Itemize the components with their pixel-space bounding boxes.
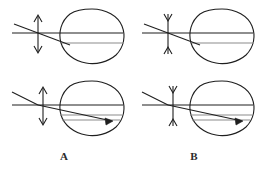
panel-a-bottom-row <box>12 81 124 136</box>
oblique-refracted-ray <box>38 105 112 121</box>
eye-outline <box>60 81 124 136</box>
eye-outline <box>190 81 254 136</box>
oblique-refracted-ray <box>38 33 70 45</box>
panel-b-top-row <box>142 9 254 64</box>
oblique-refracted-ray <box>168 33 200 45</box>
oblique-refracted-ray <box>168 105 242 121</box>
optics-figure: A B <box>0 0 258 172</box>
retina-focus-arrowhead-icon <box>235 118 243 125</box>
oblique-incident-ray <box>12 92 38 105</box>
oblique-incident-ray <box>142 92 168 105</box>
panel-label-a: A <box>60 150 68 162</box>
panel-label-b: B <box>190 150 198 162</box>
diagram-canvas: A B <box>0 0 258 172</box>
eye-outline <box>190 9 254 64</box>
oblique-incident-ray <box>144 24 168 33</box>
oblique-incident-ray <box>14 24 38 33</box>
panel-a-top-row <box>12 9 124 64</box>
eye-outline <box>60 9 124 64</box>
panel-b-bottom-row <box>142 81 254 136</box>
retina-focus-arrowhead-icon <box>105 118 113 125</box>
